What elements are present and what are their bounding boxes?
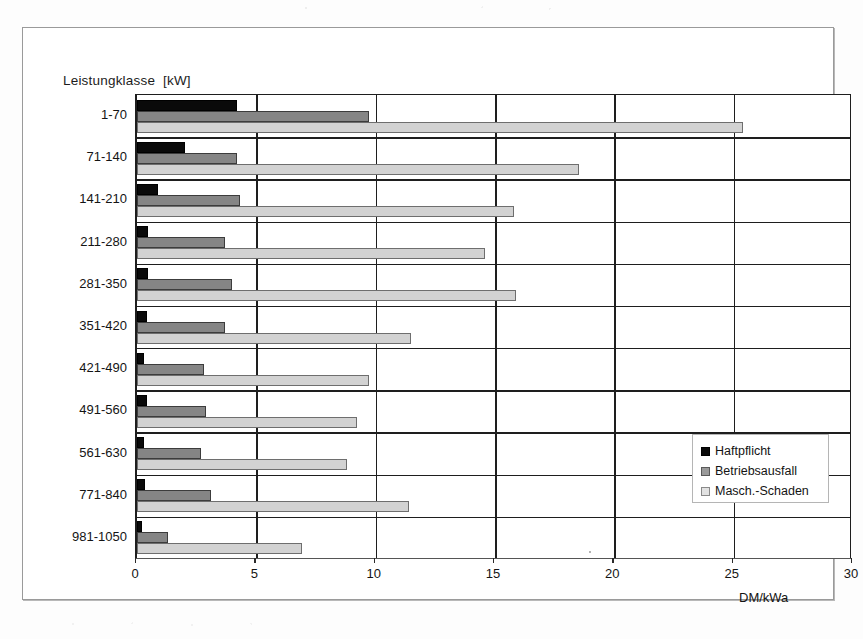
x-tick-20: [612, 558, 613, 563]
legend-label: Haftpflicht: [715, 444, 771, 458]
group-separator-5: [137, 306, 850, 307]
x-tick-25: [732, 558, 733, 563]
bar: [137, 111, 369, 122]
category-axis-labels: 1-7071-140141-210211-280281-350351-42042…: [23, 94, 127, 558]
x-tick-label-30: 30: [831, 566, 863, 581]
x-tick-label-15: 15: [473, 566, 513, 581]
bar: [137, 501, 409, 512]
bar: [137, 364, 204, 375]
bar: [137, 226, 148, 237]
legend-swatch-betriebsausfall: [701, 467, 710, 476]
category-label-71-140: 71-140: [27, 149, 127, 164]
bar: [137, 532, 168, 543]
category-label-1-70: 1-70: [27, 107, 127, 122]
group-separator-4: [137, 264, 850, 265]
bar: [137, 490, 211, 501]
bar: [137, 206, 514, 217]
group-separator-10: [137, 517, 850, 518]
bar: [137, 164, 579, 175]
x-tick-label-5: 5: [234, 566, 274, 581]
scan-artifact-top: [180, 4, 600, 12]
group-separator-1: [137, 137, 850, 138]
x-tick-label-0: 0: [115, 566, 155, 581]
bar: [137, 279, 232, 290]
bar: [137, 290, 516, 301]
bar: [137, 521, 142, 532]
bar: [137, 100, 237, 111]
legend-item-haftpflicht: Haftpflicht: [701, 441, 828, 461]
x-tick-0: [135, 558, 136, 563]
legend-label: Masch.-Schaden: [715, 484, 809, 498]
bar: [137, 448, 201, 459]
category-label-491-560: 491-560: [27, 402, 127, 417]
bar: [137, 153, 237, 164]
bar: [137, 195, 240, 206]
legend-item-betriebsausfall: Betriebsausfall: [701, 461, 828, 481]
bar: [137, 311, 147, 322]
bar: [137, 406, 206, 417]
chart-legend: HaftpflichtBetriebsausfallMasch.-Schaden: [692, 434, 829, 503]
category-label-561-630: 561-630: [27, 445, 127, 460]
figure-frame: Leistungklasse [kW] 1-7071-140141-210211…: [22, 27, 834, 600]
group-separator-6: [137, 348, 850, 349]
x-tick-label-10: 10: [354, 566, 394, 581]
category-label-351-420: 351-420: [27, 318, 127, 333]
bar: [137, 417, 357, 428]
x-tick-15: [493, 558, 494, 563]
legend-swatch-haftpflicht: [701, 447, 710, 456]
bar: [137, 237, 225, 248]
bar: [137, 333, 411, 344]
bar: [137, 395, 147, 406]
bar: [137, 543, 302, 554]
bar: [137, 437, 144, 448]
group-separator-7: [137, 390, 850, 391]
bar: [137, 248, 485, 259]
y-axis-title: Leistungklasse [kW]: [63, 73, 191, 88]
x-tick-label-20: 20: [592, 566, 632, 581]
category-label-981-1050: 981-1050: [27, 529, 127, 544]
gridline-x-20: [614, 95, 616, 558]
legend-item-masch-schaden: Masch.-Schaden: [701, 481, 828, 501]
bar: [137, 268, 148, 279]
bar: [137, 322, 225, 333]
category-label-141-210: 141-210: [27, 191, 127, 206]
x-tick-30: [851, 558, 852, 563]
scan-artifact-bottom: [40, 620, 370, 628]
group-separator-3: [137, 222, 850, 223]
bar: [137, 142, 185, 153]
legend-swatch-masch-schaden: [701, 487, 710, 496]
bar: [137, 459, 347, 470]
scan-speck: [589, 551, 591, 553]
x-tick-5: [254, 558, 255, 563]
x-tick-10: [374, 558, 375, 563]
bar: [137, 184, 158, 195]
category-label-211-280: 211-280: [27, 234, 127, 249]
bar: [137, 122, 743, 133]
bar: [137, 479, 145, 490]
group-separator-2: [137, 179, 850, 180]
category-label-421-490: 421-490: [27, 360, 127, 375]
bar: [137, 375, 369, 386]
category-label-771-840: 771-840: [27, 487, 127, 502]
legend-label: Betriebsausfall: [715, 464, 797, 478]
x-axis-title: DM/kWa: [739, 590, 788, 605]
x-tick-label-25: 25: [712, 566, 752, 581]
category-label-281-350: 281-350: [27, 276, 127, 291]
bar: [137, 353, 144, 364]
